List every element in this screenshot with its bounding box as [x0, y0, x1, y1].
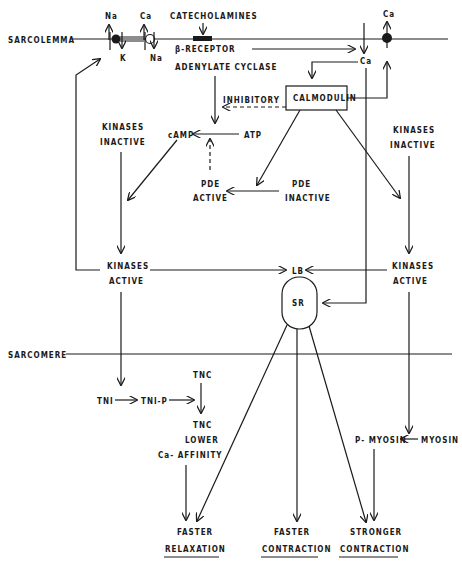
- tnc-lower-label-3: Ca- AFFINITY: [158, 451, 223, 460]
- tni-p-label: TNI-P: [141, 397, 168, 406]
- ca-channel-in-label: Ca: [360, 57, 372, 66]
- tnc-lower-label-1: TNC: [193, 421, 212, 430]
- kinases-inactive-right-label-2: INACTIVE: [390, 141, 436, 150]
- outcome-3-line-1: STRONGER: [350, 528, 402, 537]
- outcome-faster-contraction: FASTER CONTRACTION: [261, 528, 331, 557]
- ca-right-out-label: Ca: [383, 10, 395, 19]
- kinases-active-left-label-2: ACTIVE: [109, 277, 144, 286]
- calmodulin-to-kinases-arrow: [336, 110, 400, 198]
- outcome-stronger-contraction: STRONGER CONTRACTION: [339, 528, 409, 557]
- k-in-label: K: [120, 54, 127, 63]
- atp-label: ATP: [244, 131, 262, 140]
- camp-to-kinases-arrow: [128, 140, 177, 200]
- sr-label: SR: [292, 299, 305, 308]
- outcome-1-line-1: FASTER: [177, 528, 213, 537]
- sarcomere-label: SARCOMERE: [8, 351, 67, 360]
- signaling-diagram: SARCOLEMMA Na K Ca Na CATECHOLAMINES β-R…: [0, 0, 462, 568]
- p-myosin-label: P- MYOSIN: [355, 436, 407, 445]
- outcome-faster-relaxation: FASTER RELAXATION: [164, 528, 226, 557]
- kinases-to-pump-arrow: [76, 59, 100, 270]
- outcome-2-line-1: FASTER: [274, 528, 310, 537]
- kinases-inactive-right-label-1: KINASES: [393, 126, 435, 135]
- pde-active-label-2: ACTIVE: [193, 194, 228, 203]
- calmodulin-to-ca-pump-arrow: [347, 62, 387, 98]
- kinases-inactive-left-label-1: KINASES: [102, 123, 144, 132]
- tnc-lower-label-2: LOWER: [185, 436, 219, 445]
- kinases-active-right-label-2: ACTIVE: [393, 277, 428, 286]
- myosin-label: MYOSIN: [421, 436, 459, 445]
- kinases-active-left-label-1: KINASES: [107, 262, 149, 271]
- adenylate-cyclase-label: ADENYLATE CYCLASE: [175, 63, 277, 72]
- outcome-2-line-2: CONTRACTION: [262, 545, 331, 554]
- ca-out-label: Ca: [140, 12, 152, 21]
- pde-active-label-1: PDE: [201, 180, 220, 189]
- pde-inactive-label-1: PDE: [292, 180, 311, 189]
- na-in-label: Na: [150, 54, 163, 63]
- catecholamines-label: CATECHOLAMINES: [170, 12, 258, 21]
- tni-label: TNI: [97, 397, 114, 406]
- na-ca-exchanger-icon: [146, 35, 155, 44]
- pde-inactive-label-2: INACTIVE: [285, 194, 331, 203]
- tnc-top-label: TNC: [193, 371, 212, 380]
- kinases-active-right-label-1: KINASES: [392, 262, 434, 271]
- sr-to-stronger-contraction-arrow: [309, 326, 366, 522]
- camp-label: cAMP: [168, 131, 194, 140]
- calmodulin-to-pde-arrow: [257, 110, 300, 185]
- sarcolemma-label: SARCOLEMMA: [8, 36, 75, 45]
- outcome-3-line-2: CONTRACTION: [340, 545, 409, 554]
- outcome-1-line-2: RELAXATION: [165, 545, 226, 554]
- na-out-label: Na: [105, 12, 118, 21]
- na-k-pump-icon: [112, 35, 121, 44]
- kinases-inactive-left-label-2: INACTIVE: [100, 138, 146, 147]
- lb-label: LB: [292, 267, 304, 276]
- beta-receptor-icon: [193, 36, 212, 41]
- beta-receptor-label: β-RECEPTOR: [175, 45, 236, 54]
- inhibitory-label: INHIBITORY: [223, 96, 280, 105]
- ca-to-calmodulin-arrow: [312, 62, 358, 78]
